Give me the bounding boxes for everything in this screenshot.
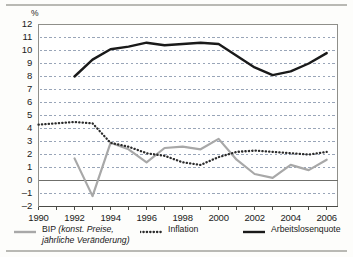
legend-label-line2: jährliche Veränderung) [42, 235, 130, 245]
x-axis-tick-label: 2000 [199, 212, 239, 223]
y-axis-tick-label: 2 [12, 148, 32, 159]
y-axis-tick-label: 5 [12, 109, 32, 120]
legend-label-line1: (konst. Preise, [58, 224, 114, 234]
legend-key-solid-gray-line [14, 228, 36, 236]
x-axis-tick-label: 1998 [163, 212, 203, 223]
y-axis-tick-label: 1 [12, 161, 32, 172]
legend-label-main: BIP [42, 224, 58, 234]
chart-figure: % 1211109876543210–1–2 19901992199419961… [0, 0, 353, 257]
y-axis-tick-label: 3 [12, 135, 32, 146]
y-axis-tick-label: 11 [12, 31, 32, 42]
y-axis-tick-label: 6 [12, 96, 32, 107]
x-axis-tick-label: 1990 [19, 212, 59, 223]
y-axis-tick-label: 9 [12, 57, 32, 68]
y-axis-tick-label: 4 [12, 122, 32, 133]
legend-key-dotted-line [140, 228, 162, 236]
legend-label: Arbeitslosenquote [271, 224, 341, 235]
y-axis-tick-label: 10 [12, 44, 32, 55]
y-axis-tick-label: –2 [12, 200, 32, 211]
legend-label: Inflation [168, 224, 198, 235]
y-axis-tick-label: 8 [12, 70, 32, 81]
x-axis-tick-label: 2006 [307, 212, 347, 223]
x-axis-tick-label: 2004 [271, 212, 311, 223]
legend-label: BIP (konst. Preise,jährliche Veränderung… [42, 224, 130, 245]
y-axis-tick-label: 0 [12, 174, 32, 185]
x-axis-tick-label: 2002 [235, 212, 275, 223]
chart-legend: BIP (konst. Preise,jährliche Veränderung… [0, 224, 353, 250]
legend-key-solid-black-line [243, 228, 265, 236]
x-axis-tick-label: 1996 [127, 212, 167, 223]
y-axis-tick-label: 7 [12, 83, 32, 94]
x-axis-tick-label: 1992 [55, 212, 95, 223]
y-axis-tick-label: –1 [12, 187, 32, 198]
y-axis-tick-label: 12 [12, 18, 32, 29]
x-axis-tick-label: 1994 [91, 212, 131, 223]
